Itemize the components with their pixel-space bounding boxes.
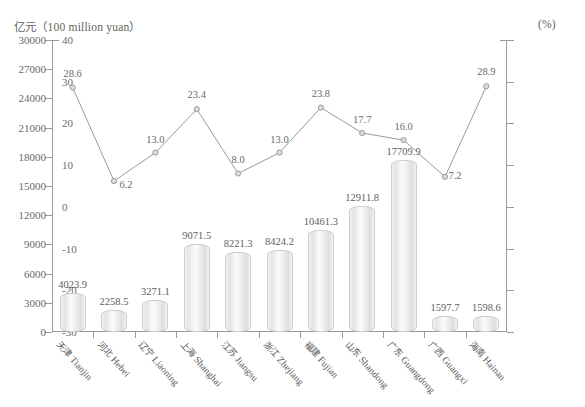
- line-value-label: 28.9: [477, 66, 495, 77]
- left-axis-tick-label: 0: [41, 326, 47, 338]
- x-axis-tick-mark: [259, 332, 260, 338]
- x-axis-tick-mark: [300, 332, 301, 338]
- right-axis-tick-mark: [507, 40, 514, 41]
- left-axis-tick-label: 30000: [19, 34, 47, 46]
- line-marker: [194, 107, 199, 112]
- left-axis-tick-label: 24000: [19, 92, 47, 104]
- x-axis-category-label: 浙江 Zhejiang: [260, 338, 307, 388]
- x-axis-category-label: 海南 Hainan: [467, 338, 509, 383]
- x-axis-category-label: 江苏 Jiangsu: [218, 338, 261, 384]
- left-axis-tick-label: 21000: [19, 122, 47, 134]
- left-axis-tick-label: 27000: [19, 63, 47, 75]
- x-axis-category-label: 辽宁 Liaoning: [136, 338, 183, 388]
- line-value-label: 13.0: [270, 134, 288, 145]
- line-marker: [70, 85, 75, 90]
- x-axis-tick-mark: [135, 332, 136, 338]
- line-marker: [318, 105, 323, 110]
- right-axis-tick-mark: [507, 123, 514, 124]
- chart-container: 亿元（100 million yuan） (%) 300002700024000…: [0, 0, 585, 407]
- line-marker: [153, 150, 158, 155]
- x-axis-tick-mark: [424, 332, 425, 338]
- line-value-label: 17.7: [353, 114, 371, 125]
- x-axis-tick-mark: [176, 332, 177, 338]
- line-value-label: 23.8: [312, 88, 330, 99]
- left-axis-unit-label: 亿元（100 million yuan）: [14, 18, 141, 34]
- left-axis-tick-mark: [45, 303, 52, 304]
- x-axis-tick-mark: [342, 332, 343, 338]
- x-axis-tick-mark: [466, 332, 467, 338]
- right-axis-tick-mark: [507, 332, 514, 333]
- line-value-label: 7.2: [448, 170, 461, 181]
- right-axis-tick-mark: [507, 249, 514, 250]
- line-marker: [360, 130, 365, 135]
- right-axis-tick-mark: [507, 207, 514, 208]
- line-marker: [111, 178, 116, 183]
- line-value-label: 23.4: [188, 89, 206, 100]
- line-value-label: 6.2: [119, 179, 132, 190]
- left-axis-tick-label: 9000: [24, 238, 46, 250]
- x-axis-category-label: 福建 Fujian: [301, 338, 341, 381]
- line-value-label: 28.6: [63, 68, 81, 79]
- line-marker: [401, 138, 406, 143]
- x-axis-category-label: 河北 Hebei: [94, 338, 133, 379]
- left-axis-tick-label: 6000: [24, 268, 46, 280]
- left-axis-tick-label: 3000: [24, 297, 46, 309]
- line-value-label: 16.0: [394, 121, 412, 132]
- line-marker: [236, 171, 241, 176]
- x-axis-category-label: 天津 Tianjin: [53, 338, 95, 383]
- x-axis-tick-mark: [217, 332, 218, 338]
- left-axis-tick-mark: [45, 274, 52, 275]
- right-axis-unit-label: (%): [538, 18, 556, 30]
- x-axis-tick-mark: [383, 332, 384, 338]
- left-axis-tick-label: 12000: [19, 209, 47, 221]
- line-marker: [277, 150, 282, 155]
- line-marker: [442, 174, 447, 179]
- x-axis-tick-mark: [93, 332, 94, 338]
- right-axis-tick-mark: [507, 290, 514, 291]
- left-axis-tick-mark: [45, 244, 52, 245]
- line-marker: [484, 84, 489, 89]
- right-axis-tick-mark: [507, 165, 514, 166]
- plot-area: 3000027000240002100018000150001200090006…: [52, 40, 507, 332]
- left-axis-tick-label: 18000: [19, 151, 47, 163]
- left-axis-tick-label: 15000: [19, 180, 47, 192]
- line-value-label: 13.0: [146, 134, 164, 145]
- right-axis-tick-mark: [507, 82, 514, 83]
- line-value-label: 8.0: [232, 154, 245, 165]
